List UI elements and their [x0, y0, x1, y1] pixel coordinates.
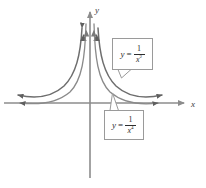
numerator: 1 — [127, 116, 135, 125]
denominator: x2 — [134, 55, 144, 64]
numerator: 1 — [135, 45, 143, 54]
fraction: 1 x2 — [134, 45, 145, 64]
equation-x-fourth: y = 1 x4 — [112, 116, 136, 135]
denominator-exponent: 2 — [140, 54, 143, 59]
graph-canvas: x y — [0, 0, 206, 188]
equals-sign: = — [118, 121, 123, 130]
curve-x4-right-up-arrowhead — [91, 30, 97, 37]
curve-x2-left-branch — [18, 28, 82, 97]
callout-y-equals-1-over-x-squared: y = 1 x2 — [112, 38, 153, 70]
equation-lhs: y — [112, 121, 116, 130]
denominator-exponent: 4 — [131, 125, 134, 130]
callout-y-equals-1-over-x-fourth: y = 1 x4 — [104, 110, 144, 140]
fraction: 1 x4 — [125, 116, 136, 135]
equation-lhs: y — [120, 50, 124, 59]
graph-figure: x y y — [0, 0, 206, 188]
equals-sign: = — [126, 50, 131, 59]
curve-x4-left-up-arrowhead — [84, 30, 90, 37]
equation-x-squared: y = 1 x2 — [120, 45, 144, 64]
curve-x2-left-branch-up — [18, 28, 82, 97]
x-axis-label: x — [190, 99, 195, 109]
axes-group: x y — [4, 5, 195, 178]
y-axis-label: y — [94, 5, 99, 15]
callout-square-tail — [118, 70, 131, 79]
denominator: x4 — [126, 126, 136, 135]
